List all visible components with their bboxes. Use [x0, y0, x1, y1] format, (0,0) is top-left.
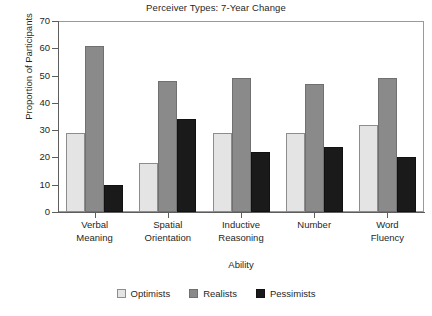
x-axis-label-line: Meaning [58, 232, 131, 245]
x-axis-tick [314, 213, 315, 218]
bar-series-layer [58, 21, 424, 212]
bar-realists-inductive-reasoning [232, 78, 251, 212]
bar-realists-word-fluency [378, 78, 397, 212]
bar-realists-verbal-meaning [85, 46, 104, 212]
legend-item-realists: Realists [189, 288, 237, 299]
x-axis-label-word-fluency: WordFluency [351, 219, 424, 244]
bar-pessimists-word-fluency [397, 157, 416, 212]
y-axis-tick-label: 0 [24, 207, 50, 217]
x-axis-label-inductive-reasoning: InductiveReasoning [204, 219, 277, 244]
bar-optimists-number [286, 133, 305, 212]
x-axis-label-line: Verbal [58, 219, 131, 232]
legend-label: Pessimists [270, 288, 315, 299]
x-axis-label-line: Inductive [204, 219, 277, 232]
legend-item-optimists: Optimists [117, 288, 171, 299]
bar-realists-spatial-orientation [158, 81, 177, 212]
y-axis-tick-label: 40 [24, 98, 50, 108]
x-axis-label-spatial-orientation: SpatialOrientation [131, 219, 204, 244]
bar-realists-number [305, 84, 324, 212]
x-axis-tick [168, 213, 169, 218]
y-axis-tick-label: 10 [24, 180, 50, 190]
bar-optimists-inductive-reasoning [213, 133, 232, 212]
legend-swatch-icon [189, 289, 198, 298]
bar-pessimists-number [324, 147, 343, 212]
chart-legend: OptimistsRealistsPessimists [0, 288, 432, 299]
y-axis-tick-label: 60 [24, 43, 50, 53]
legend-swatch-icon [256, 289, 265, 298]
y-axis-tick-label: 50 [24, 71, 50, 81]
legend-swatch-icon [117, 289, 126, 298]
x-axis-label-line: Reasoning [204, 232, 277, 245]
x-axis-label-line: Fluency [351, 232, 424, 245]
x-axis-tick [95, 213, 96, 218]
legend-label: Realists [203, 288, 237, 299]
x-axis-label-line: Spatial [131, 219, 204, 232]
x-axis-tick [387, 213, 388, 218]
bar-optimists-spatial-orientation [139, 163, 158, 212]
y-axis-tick-label: 30 [24, 125, 50, 135]
x-axis-label-line: Word [351, 219, 424, 232]
x-axis-label-verbal-meaning: VerbalMeaning [58, 219, 131, 244]
y-axis-tick-label: 20 [24, 152, 50, 162]
x-axis-label-number: Number [278, 219, 351, 232]
bar-optimists-verbal-meaning [66, 133, 85, 212]
legend-label: Optimists [131, 288, 171, 299]
bar-pessimists-inductive-reasoning [251, 152, 270, 212]
y-axis-tick-label: 70 [24, 16, 50, 26]
bar-pessimists-verbal-meaning [104, 185, 123, 212]
bar-optimists-word-fluency [359, 125, 378, 212]
legend-item-pessimists: Pessimists [256, 288, 315, 299]
y-axis-tick [52, 212, 58, 213]
chart-title: Perceiver Types: 7-Year Change [0, 2, 432, 13]
x-axis-title: Ability [58, 259, 424, 270]
x-axis-label-line: Number [278, 219, 351, 232]
bar-pessimists-spatial-orientation [177, 119, 196, 212]
x-axis-tick [241, 213, 242, 218]
x-axis-label-line: Orientation [131, 232, 204, 245]
